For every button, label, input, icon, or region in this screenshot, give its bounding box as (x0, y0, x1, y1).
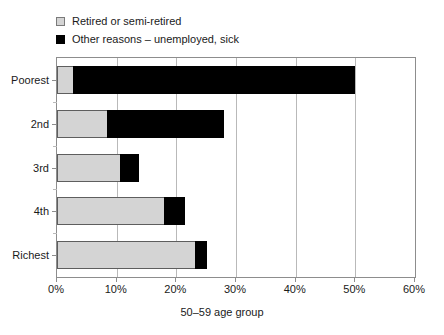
bar-segment-other (164, 197, 185, 225)
legend-swatch-retired-icon (56, 17, 65, 26)
bar-group (57, 241, 207, 269)
y-minor-tick (53, 146, 57, 147)
y-axis-label-2nd: 2nd (31, 118, 49, 130)
bar-segment-retired (57, 197, 164, 225)
y-tick (52, 168, 57, 169)
x-tick (116, 277, 117, 282)
y-minor-tick (53, 102, 57, 103)
y-minor-tick (53, 233, 57, 234)
y-axis-label-richest: Richest (12, 249, 49, 261)
chart-container: Retired or semi-retired Other reasons – … (0, 0, 444, 335)
y-tick (52, 80, 57, 81)
bar-group (57, 110, 224, 138)
x-tick (235, 277, 236, 282)
y-minor-tick (53, 189, 57, 190)
bar-segment-retired (57, 154, 120, 182)
x-axis-label-60pct: 60% (403, 283, 425, 295)
y-tick (52, 211, 57, 212)
legend-label-other: Other reasons – unemployed, sick (72, 33, 239, 46)
x-axis-label-20pct: 20% (164, 283, 186, 295)
bar-segment-other (107, 110, 225, 138)
x-axis-label-30pct: 30% (224, 283, 246, 295)
bar-segment-other (120, 154, 140, 182)
y-axis-label-poorest: Poorest (11, 74, 49, 86)
x-tick (414, 277, 415, 282)
legend-item-retired: Retired or semi-retired (56, 14, 239, 29)
bar-group (57, 154, 139, 182)
x-tick (56, 277, 57, 282)
bar-segment-retired (57, 110, 107, 138)
x-tick (295, 277, 296, 282)
legend-label-retired: Retired or semi-retired (72, 15, 181, 28)
x-axis-label-10pct: 10% (105, 283, 127, 295)
x-axis-label-50pct: 50% (343, 283, 365, 295)
x-axis-title: 50–59 age group (0, 306, 444, 318)
plot-area: Poorest2nd3rd4thRichest (56, 57, 416, 278)
x-tick (354, 277, 355, 282)
x-axis-label-40pct: 40% (284, 283, 306, 295)
y-axis-label-4th: 4th (34, 205, 49, 217)
bars-layer (57, 58, 415, 277)
legend-swatch-other-icon (56, 35, 65, 44)
y-axis-label-3rd: 3rd (33, 162, 49, 174)
bar-segment-retired (57, 241, 195, 269)
bar-group (57, 197, 185, 225)
y-tick (52, 124, 57, 125)
legend-item-other: Other reasons – unemployed, sick (56, 32, 239, 47)
bar-segment-retired (57, 66, 73, 94)
y-tick (52, 255, 57, 256)
bar-segment-other (73, 66, 356, 94)
x-axis-label-0pct: 0% (48, 283, 64, 295)
chart-legend: Retired or semi-retired Other reasons – … (56, 14, 239, 50)
bar-segment-other (195, 241, 208, 269)
bar-group (57, 66, 355, 94)
x-tick (175, 277, 176, 282)
